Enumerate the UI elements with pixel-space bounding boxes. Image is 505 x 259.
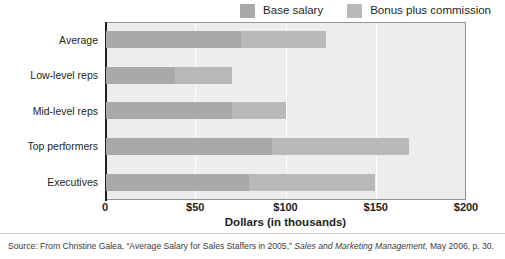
- bar-segment-bonus-plus-commission: [241, 31, 326, 48]
- legend-label-bonus-plus-commission: Bonus plus commission: [370, 5, 491, 17]
- bar-segment-base-salary: [106, 31, 241, 48]
- source-note: Source: From Christine Galea, “Average S…: [8, 241, 503, 252]
- category-label-mid-level-reps: Mid-level reps: [14, 106, 98, 117]
- bar-segment-bonus-plus-commission: [232, 102, 286, 119]
- x-tick-50: $50: [186, 202, 204, 213]
- bar-segment-base-salary: [106, 138, 272, 155]
- legend-entry-base-salary: Base salary: [240, 4, 323, 18]
- x-tick-100: $100: [273, 202, 297, 213]
- stacked-bar: [106, 31, 326, 48]
- bar-row: Average: [14, 22, 491, 58]
- category-label-average: Average: [14, 35, 98, 46]
- stacked-bar: [106, 67, 232, 84]
- source-suffix: , May 2006, p. 30.: [425, 241, 494, 251]
- bar-segment-bonus-plus-commission: [272, 138, 409, 155]
- legend-swatch-base-salary: [240, 4, 255, 18]
- bar-segment-bonus-plus-commission: [175, 67, 233, 84]
- chart-plot-area: AverageLow-level repsMid-level repsTop p…: [14, 22, 491, 200]
- category-label-top-performers: Top performers: [14, 141, 98, 152]
- bar-segment-base-salary: [106, 67, 175, 84]
- bar-row: Mid-level reps: [14, 93, 491, 129]
- bar-row: Executives: [14, 164, 491, 200]
- legend-label-base-salary: Base salary: [263, 5, 323, 17]
- source-publication: Sales and Marketing Management: [294, 241, 425, 251]
- x-axis-title: Dollars (in thousands): [0, 216, 505, 228]
- stacked-bar: [106, 138, 409, 155]
- bar-rows: AverageLow-level repsMid-level repsTop p…: [14, 22, 491, 200]
- bar-row: Low-level reps: [14, 58, 491, 94]
- bar-segment-bonus-plus-commission: [249, 174, 375, 191]
- source-prefix: Source: From Christine Galea, “Average S…: [8, 241, 294, 251]
- chart-legend: Base salary Bonus plus commission: [0, 0, 505, 22]
- bar-row: Top performers: [14, 129, 491, 165]
- x-axis-title-text: Dollars (in thousands): [225, 216, 346, 228]
- bar-segment-base-salary: [106, 174, 249, 191]
- x-tick-150: $150: [364, 202, 388, 213]
- legend-entry-bonus-plus-commission: Bonus plus commission: [347, 4, 491, 18]
- category-label-low-level-reps: Low-level reps: [14, 70, 98, 81]
- source-divider: [0, 233, 505, 234]
- x-tick-0: 0: [102, 202, 108, 213]
- stacked-bar: [106, 174, 375, 191]
- legend-swatch-bonus-plus-commission: [347, 4, 362, 18]
- x-axis-tick-labels: 0$50$100$150$200: [14, 202, 491, 216]
- x-tick-200: $200: [454, 202, 478, 213]
- stacked-bar: [106, 102, 286, 119]
- category-label-executives: Executives: [14, 177, 98, 188]
- bar-segment-base-salary: [106, 102, 232, 119]
